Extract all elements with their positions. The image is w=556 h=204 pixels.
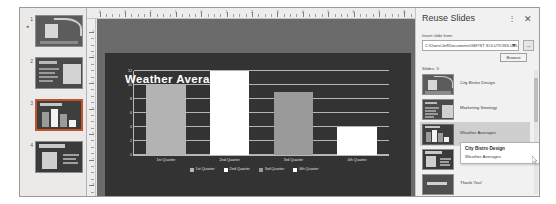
ruler-minor-tick [220, 14, 221, 17]
ruler-minor-tick [91, 70, 94, 71]
ruler-minor-tick [290, 14, 291, 17]
slides-count-label: Slides: 5 [422, 66, 439, 71]
slide-thumbnail-image-1 [35, 15, 83, 47]
chart-legend-swatch [190, 168, 194, 172]
ruler-minor-tick [392, 14, 393, 17]
ruler-minor-tick [296, 14, 297, 17]
slide-path-input[interactable]: C:\Users\Jeff\Documents\GMYST SOLUTIONS.… [422, 40, 519, 51]
ruler-label: 1 [226, 10, 228, 14]
tooltip-subtitle: Weather Averages [465, 154, 501, 160]
chart-category-label: 3rd Quarter [284, 158, 303, 163]
ruler-minor-tick [91, 45, 94, 46]
slide-title[interactable]: Weather Averages [125, 73, 231, 85]
more-options-icon[interactable]: ⋮ [507, 14, 517, 24]
chart-y-tick-label: 8 [130, 97, 132, 101]
reuse-slide-item-2[interactable]: Marketing Strategy [420, 97, 530, 121]
insert-slide-from-label: Insert slide from: [422, 33, 453, 38]
insert-slide-from-row: C:\Users\Jeff\Documents\GMYST SOLUTIONS.… [422, 40, 534, 51]
chart-legend-label: 2nd Quarter [230, 167, 250, 172]
ruler-minor-tick [195, 14, 196, 17]
slide-canvas[interactable]: 0246810121st Quarter2nd Quarter3rd Quart… [97, 19, 417, 197]
ruler-minor-tick [91, 140, 94, 141]
scrollbar-thumb[interactable] [534, 78, 538, 122]
task-pane-header: Reuse Slides ⋮ ✕ [416, 8, 539, 30]
ruler-minor-tick [265, 14, 266, 17]
ruler-minor-tick [335, 14, 336, 17]
ruler-label: 1 [92, 81, 94, 85]
browse-button[interactable]: Browse [500, 53, 527, 62]
slide-thumbnail-pane[interactable]: 1 ● 2 3 [20, 8, 87, 196]
ruler-minor-tick [315, 14, 316, 17]
chart-legend-label: 3rd Quarter [265, 167, 284, 172]
chart-bar[interactable] [274, 92, 314, 155]
vertical-ruler: 3210123 [87, 19, 96, 197]
ruler-minor-tick [157, 14, 158, 17]
ruler-label: 4 [99, 10, 101, 14]
ruler-minor-tick [258, 14, 259, 17]
ruler-label: 2 [92, 55, 94, 59]
ruler-label: 1 [175, 10, 177, 14]
slide-thumbnail-3[interactable]: 3 [24, 98, 86, 136]
ruler-minor-tick [106, 14, 107, 17]
ruler-minor-tick [91, 121, 94, 122]
chart-y-tick-label: 6 [130, 111, 132, 115]
reuse-slide-label-1: City Bistro Design [460, 80, 495, 86]
ruler-minor-tick [208, 14, 209, 17]
ruler-minor-tick [360, 14, 361, 17]
chart-legend-label: 4th Quarter [299, 167, 318, 172]
slide-number-3: 3 [24, 100, 33, 106]
ruler-label: 7 [378, 10, 380, 14]
ruler-minor-tick [398, 14, 399, 17]
ruler-minor-tick [341, 14, 342, 17]
chart-category-label: 2nd Quarter [219, 158, 239, 163]
ruler-minor-tick [91, 166, 94, 167]
chart-bar[interactable] [146, 85, 186, 155]
ruler-minor-tick [91, 96, 94, 97]
reuse-slides-list[interactable]: City Bistro Design Marketing Strategy [420, 72, 536, 194]
chart-category-label: 4th Quarter [348, 158, 367, 163]
ruler-minor-tick [309, 14, 310, 17]
ruler-minor-tick [144, 14, 145, 17]
ruler-minor-tick [91, 192, 94, 193]
reuse-slides-pane: Reuse Slides ⋮ ✕ Insert slide from: C:\U… [415, 8, 539, 197]
ruler-minor-tick [91, 147, 94, 148]
ruler-minor-tick [91, 115, 94, 116]
ruler-minor-tick [214, 14, 215, 17]
ruler-minor-tick [385, 14, 386, 17]
ruler-label: 0 [200, 10, 202, 14]
slide-thumbnail-2[interactable]: 2 [24, 56, 86, 94]
task-pane-scrollbar[interactable] [534, 70, 538, 194]
chart-legend: 1st Quarter2nd Quarter3rd Quarter4th Qua… [119, 167, 389, 172]
chevron-down-icon[interactable] [512, 44, 516, 47]
chart-legend-item: 3rd Quarter [259, 167, 284, 172]
ruler-minor-tick [91, 77, 94, 78]
horizontal-ruler: 4321012345678 [87, 8, 417, 19]
chart-legend-swatch [259, 168, 263, 172]
reuse-slide-label-5: Thank You! [460, 180, 482, 186]
close-icon[interactable]: ✕ [523, 14, 533, 24]
chart-legend-item: 2nd Quarter [224, 167, 250, 172]
ruler-minor-tick [347, 14, 348, 17]
ruler-label: 2 [251, 10, 253, 14]
current-slide[interactable]: 0246810121st Quarter2nd Quarter3rd Quart… [97, 19, 417, 197]
chart-y-tick-label: 4 [130, 125, 132, 129]
ruler-minor-tick [239, 14, 240, 17]
slide-thumbnail-image-3 [35, 99, 83, 131]
go-arrow-button[interactable]: → [523, 40, 534, 51]
slide-thumbnail-1[interactable]: 1 ● [24, 14, 86, 52]
reuse-slide-item-5[interactable]: Thank You! [420, 172, 530, 196]
reuse-slide-item-1[interactable]: City Bistro Design [420, 72, 530, 96]
chart-bar[interactable] [337, 127, 377, 155]
reuse-slide-thumb-4 [422, 149, 454, 170]
ruler-minor-tick [91, 153, 94, 154]
ruler-label: 1 [92, 132, 94, 136]
ruler-label: 3 [92, 183, 94, 187]
ruler-minor-tick [91, 172, 94, 173]
ruler-minor-tick [271, 14, 272, 17]
ruler-label: 0 [92, 107, 94, 111]
ruler-minor-tick [112, 14, 113, 17]
reuse-slide-label-3: Weather Averages [460, 130, 496, 136]
slide-thumbnail-4[interactable]: 4 [24, 140, 86, 178]
ruler-label: 2 [92, 158, 94, 162]
slide-number-4: 4 [24, 142, 33, 148]
